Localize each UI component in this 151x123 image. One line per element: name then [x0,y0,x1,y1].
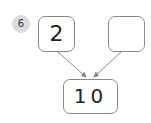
arrow-right-to-total [94,52,121,77]
total-box: 10 [63,79,118,114]
arrow-left-to-total [58,52,86,77]
